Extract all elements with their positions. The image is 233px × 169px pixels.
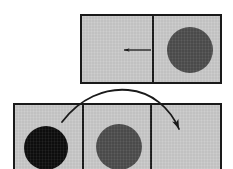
top-frame-dark-disc [167, 27, 213, 73]
figure-canvas [0, 0, 233, 169]
bottom-frame-divider-2 [150, 105, 152, 169]
bottom-frame-panel [13, 103, 222, 169]
bottom-frame-dark-disc [96, 124, 142, 169]
bottom-frame-divider-1 [82, 105, 84, 169]
top-frame-divider [152, 16, 154, 82]
bottom-frame-black-disc [24, 126, 68, 169]
top-frame-panel [80, 14, 222, 84]
